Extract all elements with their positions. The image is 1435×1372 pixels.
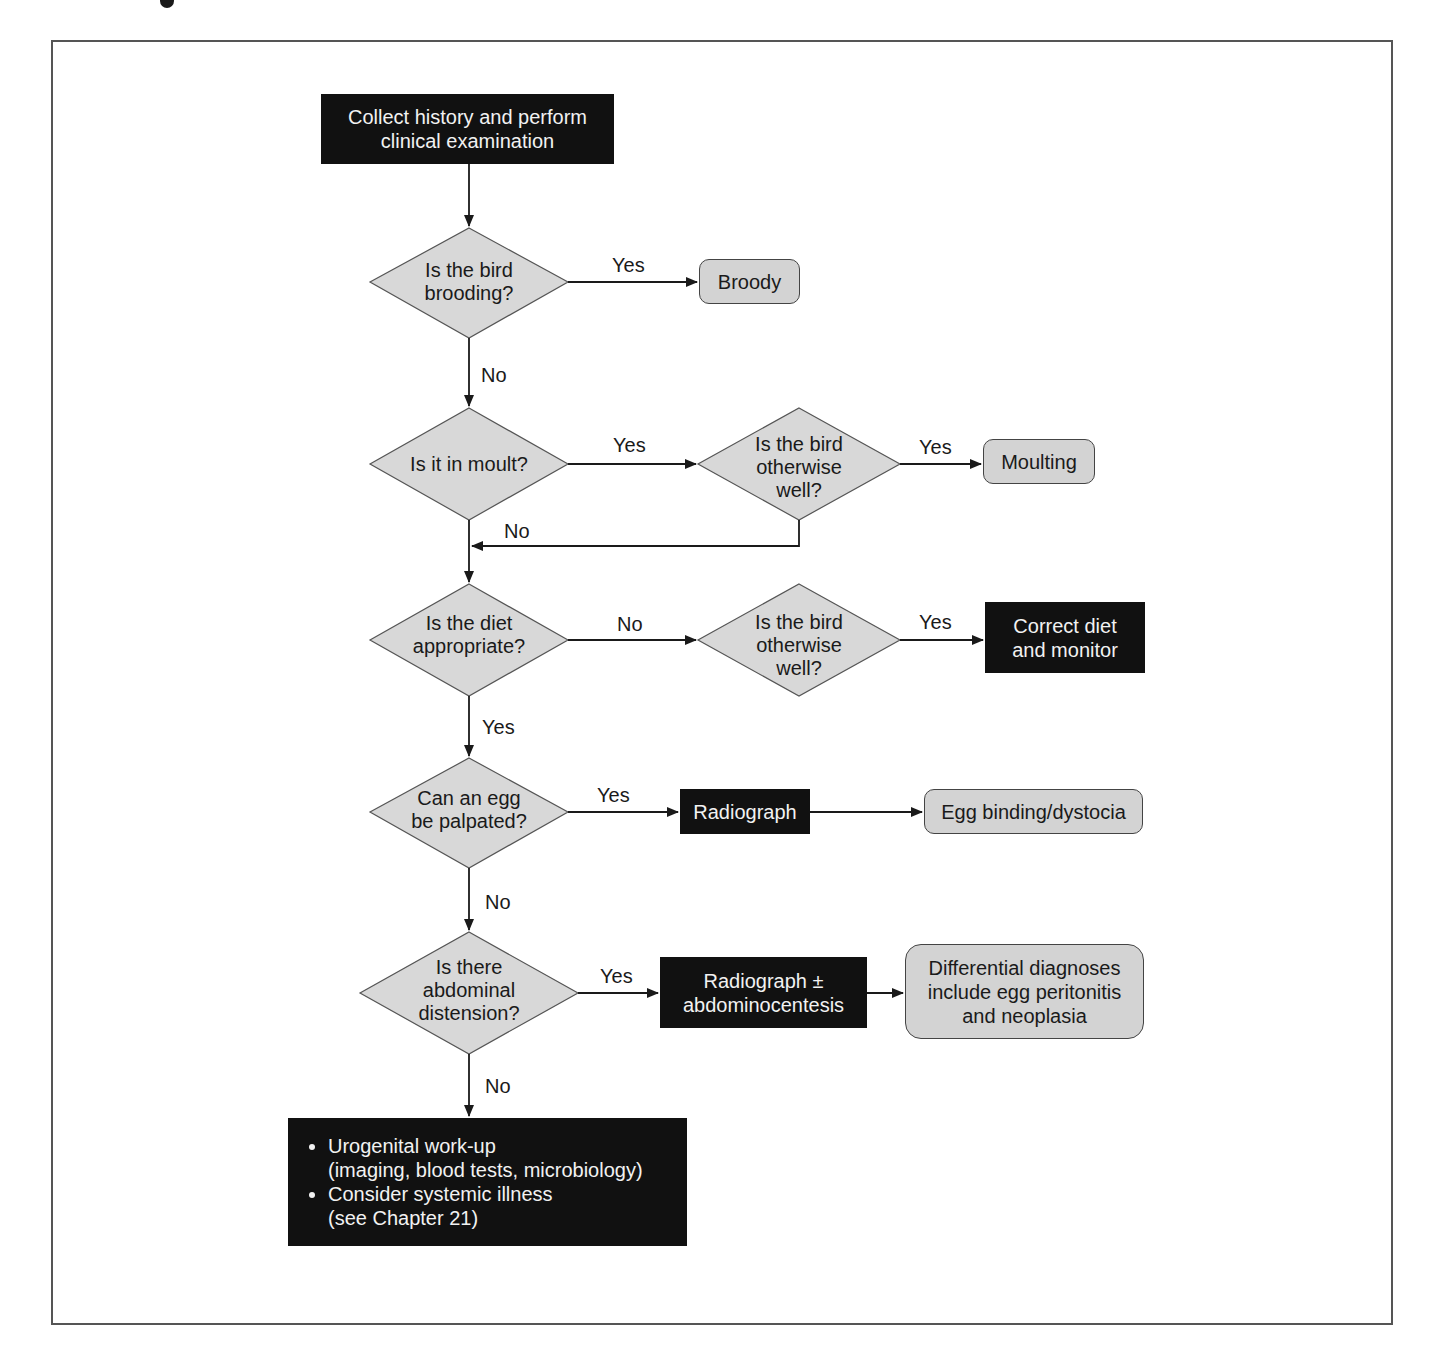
- decision-line: otherwise: [756, 634, 842, 657]
- decision-egg-label: Can an egg be palpated?: [400, 787, 538, 833]
- action-radiograph-abdominocentesis: Radiograph ± abdominocentesis: [660, 957, 867, 1028]
- edge-label-distension-no: No: [485, 1075, 511, 1098]
- edge-label-well2-yes: Yes: [919, 611, 952, 634]
- outcome-line: and neoplasia: [962, 1004, 1087, 1028]
- decision-line: appropriate?: [413, 635, 525, 658]
- outcome-broody: Broody: [699, 259, 800, 304]
- decision-diet-label: Is the diet appropriate?: [400, 612, 538, 658]
- edge-label-diet-no: No: [617, 613, 643, 636]
- action-line: abdominocentesis: [683, 993, 844, 1017]
- outcome-label: Moulting: [1001, 450, 1077, 474]
- start-line1: Collect history and perform: [348, 105, 587, 129]
- action-line: Radiograph: [693, 800, 796, 824]
- decision-line: Is it in moult?: [410, 453, 528, 476]
- workup-line: Consider systemic illness: [328, 1183, 553, 1205]
- action-line: Correct diet: [1013, 614, 1116, 638]
- decision-line: distension?: [418, 1002, 519, 1025]
- action-line: and monitor: [1012, 638, 1118, 662]
- decision-line: Is the diet: [426, 612, 513, 635]
- edge-label-well1-no: No: [504, 520, 530, 543]
- decision-well-2-label: Is the bird otherwise well?: [738, 610, 860, 680]
- decision-line: abdominal: [423, 979, 515, 1002]
- decision-moult-label: Is it in moult?: [395, 452, 543, 476]
- action-radiograph: Radiograph: [680, 789, 810, 834]
- outcome-egg-binding: Egg binding/dystocia: [924, 789, 1143, 834]
- outcome-line: Differential diagnoses: [929, 956, 1121, 980]
- outcome-moulting: Moulting: [983, 439, 1095, 484]
- action-workup: Urogenital work-up (imaging, blood tests…: [288, 1118, 687, 1246]
- decision-line: brooding?: [425, 282, 514, 305]
- start-box: Collect history and perform clinical exa…: [321, 94, 614, 164]
- edge-label-diet-yes: Yes: [482, 716, 515, 739]
- workup-line: (see Chapter 21): [328, 1207, 478, 1229]
- decision-line: Can an egg: [417, 787, 520, 810]
- edge-label-distension-yes: Yes: [600, 965, 633, 988]
- decision-line: Is the bird: [755, 433, 843, 456]
- decision-line: be palpated?: [411, 810, 527, 833]
- decision-distension-label: Is there abdominal distension?: [395, 955, 543, 1025]
- action-correct-diet: Correct diet and monitor: [985, 602, 1145, 673]
- edge-label-moult-yes: Yes: [613, 434, 646, 457]
- decision-well-1-label: Is the bird otherwise well?: [738, 432, 860, 502]
- action-line: Radiograph ±: [704, 969, 824, 993]
- decision-line: Is there: [436, 956, 503, 979]
- edge-label-egg-yes: Yes: [597, 784, 630, 807]
- workup-list: Urogenital work-up (imaging, blood tests…: [308, 1134, 643, 1230]
- edge-label-brooding-no: No: [481, 364, 507, 387]
- decision-line: Is the bird: [425, 259, 513, 282]
- workup-line: (imaging, blood tests, microbiology): [328, 1159, 643, 1181]
- outcome-line: include egg peritonitis: [928, 980, 1121, 1004]
- edge-label-egg-no: No: [485, 891, 511, 914]
- outcome-label: Broody: [718, 270, 781, 294]
- decision-line: well?: [776, 657, 822, 680]
- decision-line: Is the bird: [755, 611, 843, 634]
- workup-item: Urogenital work-up (imaging, blood tests…: [328, 1134, 643, 1182]
- edge-label-brooding-yes: Yes: [612, 254, 645, 277]
- edge-label-well1-yes: Yes: [919, 436, 952, 459]
- workup-line: Urogenital work-up: [328, 1135, 496, 1157]
- flowchart-connectors: [0, 0, 1435, 1372]
- outcome-label: Egg binding/dystocia: [941, 800, 1126, 824]
- start-line2: clinical examination: [381, 129, 554, 153]
- decision-line: well?: [776, 479, 822, 502]
- decision-line: otherwise: [756, 456, 842, 479]
- outcome-differential: Differential diagnoses include egg perit…: [905, 944, 1144, 1039]
- decision-brooding-label: Is the bird brooding?: [400, 252, 538, 312]
- workup-item: Consider systemic illness (see Chapter 2…: [328, 1182, 643, 1230]
